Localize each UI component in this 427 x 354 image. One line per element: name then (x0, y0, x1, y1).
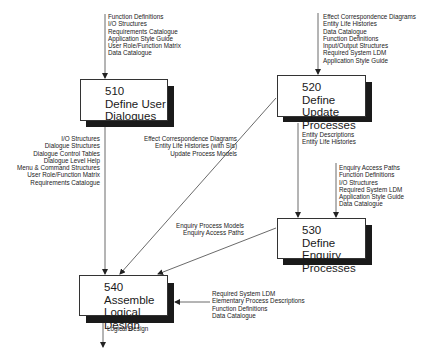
process-510-id: 510 (105, 85, 167, 98)
flow-label-into-530: Enquiry Access Paths Function Definition… (339, 164, 404, 208)
process-520-box[interactable]: 520 Define Update Processes (277, 75, 366, 117)
flow-label-510-to-540: I/O Structures Dialogue Structures Dialo… (17, 135, 100, 186)
process-540-id: 540 (104, 281, 167, 294)
process-530-id: 530 (302, 224, 365, 237)
process-510-name-1: Define User (105, 98, 167, 111)
flow-label-520-to-540: Effect Correspondence Diagrams Entity Li… (144, 135, 237, 157)
flow-label-520-to-530: Entity Descriptions Entity Life Historie… (302, 131, 356, 146)
flow-label-out-of-540: Logical Design (107, 325, 148, 332)
process-540-box[interactable]: 540 Assemble Logical Design (79, 275, 168, 316)
process-510-box[interactable]: 510 Define User Dialogues (80, 79, 168, 121)
process-520-id: 520 (302, 81, 365, 94)
process-530-name-2: Processes (302, 262, 365, 275)
process-530-name-1: Define Enquiry (302, 237, 365, 262)
process-540-name-1: Assemble (104, 294, 167, 307)
flow-label-530-to-540: Enquiry Process Models Enquiry Access Pa… (176, 222, 244, 237)
process-520-name-1: Define Update (302, 94, 365, 119)
flow-label-into-510: Function Definitions I/O Structures Requ… (108, 13, 181, 57)
process-510-name-2: Dialogues (105, 110, 167, 123)
flow-label-into-540: Required System LDM Elementary Process D… (212, 290, 305, 319)
process-530-box[interactable]: 530 Define Enquiry Processes (277, 218, 366, 259)
process-520-name-2: Processes (302, 119, 365, 132)
flow-label-into-520: Effect Correspondence Diagrams Entity Li… (323, 13, 416, 64)
